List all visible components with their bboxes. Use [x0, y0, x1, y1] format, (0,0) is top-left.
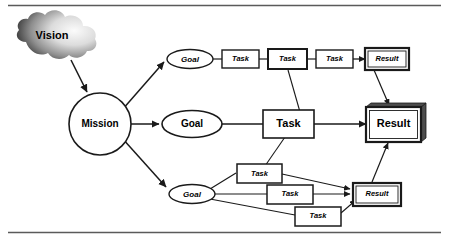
node-result-mid[interactable]: Result	[366, 103, 426, 142]
edge-resultbottom-resultmid	[372, 143, 388, 182]
node-vision-label: Vision	[36, 29, 69, 41]
node-goal-mid-label: Goal	[181, 118, 203, 129]
edge-goalbottom-taskbottom1	[210, 173, 236, 189]
edge-mission-goal-bottom	[122, 138, 166, 187]
node-vision[interactable]: Vision	[17, 10, 97, 59]
node-goal-top-label: Goal	[181, 55, 200, 64]
node-mission[interactable]: Mission	[69, 93, 131, 155]
node-task-bottom-1-label: Task	[251, 169, 269, 178]
node-task-top-1[interactable]: Task	[222, 50, 259, 68]
node-result-mid-label: Result	[377, 117, 411, 129]
node-task-top-3-label: Task	[326, 54, 344, 63]
node-result-bottom-label: Result	[366, 189, 389, 198]
node-mission-label: Mission	[81, 118, 118, 129]
node-task-bottom-3-label: Task	[310, 211, 328, 220]
node-task-top-1-label: Task	[232, 54, 250, 63]
node-task-top-3[interactable]: Task	[316, 50, 353, 68]
node-task-bottom-2[interactable]: Task	[267, 185, 313, 204]
node-task-bottom-1[interactable]: Task	[237, 164, 282, 183]
node-task-bottom-2-label: Task	[282, 189, 300, 198]
node-goal-mid[interactable]: Goal	[162, 111, 222, 138]
node-result-bottom[interactable]: Result	[353, 183, 401, 206]
node-task-top-2-label: Task	[279, 54, 297, 63]
node-task-mid-label: Task	[276, 117, 301, 129]
node-result-top[interactable]: Result	[365, 48, 409, 70]
diagram-canvas: Vision Mission Goal Task Task Task	[0, 0, 449, 241]
node-task-mid[interactable]: Task	[263, 110, 314, 138]
node-task-bottom-3[interactable]: Task	[295, 207, 341, 226]
edge-resulttop-resultmid	[374, 70, 389, 105]
edge-mission-goal-top	[122, 62, 164, 110]
node-goal-top[interactable]: Goal	[167, 50, 213, 69]
node-goal-bottom[interactable]: Goal	[169, 185, 215, 204]
edge-taskmid-taskbottom1	[265, 137, 285, 166]
edge-vision-mission	[71, 60, 87, 92]
node-goal-bottom-label: Goal	[183, 190, 202, 199]
edge-tasktop2-resultmid	[288, 70, 300, 112]
node-task-top-2[interactable]: Task	[268, 49, 307, 69]
node-result-top-label: Result	[376, 54, 399, 63]
